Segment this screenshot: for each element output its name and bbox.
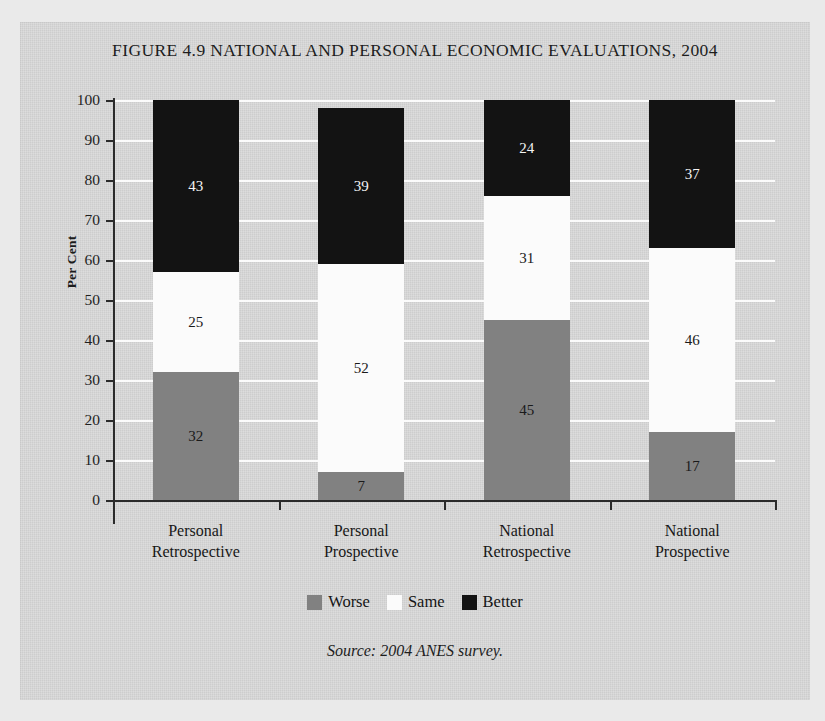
bar-segment-better: 39 xyxy=(318,108,404,264)
category-label-line2: Retrospective xyxy=(437,541,617,562)
y-tick-label-100: 100 xyxy=(54,92,100,108)
bar-segment-worse: 7 xyxy=(318,472,404,500)
y-tick-label-90: 90 xyxy=(54,132,100,148)
legend-swatch-worse xyxy=(307,595,322,610)
category-label-line1: Personal xyxy=(271,520,451,541)
category-label-line2: Prospective xyxy=(602,541,782,562)
y-tick-50 xyxy=(106,300,113,302)
bar-stack: 39527 xyxy=(318,108,404,500)
source-note: Source: 2004 ANES survey. xyxy=(20,642,810,660)
bar-segment-value: 32 xyxy=(188,429,203,444)
y-tick-label-40: 40 xyxy=(54,332,100,348)
category-label-line1: National xyxy=(602,520,782,541)
chart-legend: WorseSameBetter xyxy=(20,592,810,612)
x-tick xyxy=(610,502,612,510)
bar-segment-better: 24 xyxy=(484,100,570,196)
category-label: PersonalProspective xyxy=(271,520,451,562)
bar-segment-better: 37 xyxy=(649,100,735,248)
bar-segment-value: 46 xyxy=(685,333,700,348)
legend-label: Same xyxy=(408,592,445,612)
y-tick-100 xyxy=(106,100,113,102)
bar-segment-worse: 45 xyxy=(484,320,570,500)
y-tick-label-20: 20 xyxy=(54,412,100,428)
y-tick-70 xyxy=(106,220,113,222)
bar-segment-same: 52 xyxy=(318,264,404,472)
bar-segment-value: 39 xyxy=(354,179,369,194)
bar-segment-same: 25 xyxy=(153,272,239,372)
y-tick-60 xyxy=(106,260,113,262)
x-tick xyxy=(113,502,115,510)
bar-segment-value: 31 xyxy=(519,251,534,266)
category-label-line2: Prospective xyxy=(271,541,451,562)
y-tick-90 xyxy=(106,140,113,142)
legend-swatch-better xyxy=(462,595,477,610)
figure-panel: FIGURE 4.9 NATIONAL AND PERSONAL ECONOMI… xyxy=(20,22,810,700)
bar-segment-value: 43 xyxy=(188,179,203,194)
y-tick-label-10: 10 xyxy=(54,452,100,468)
category-label-line1: National xyxy=(437,520,617,541)
legend-swatch-same xyxy=(387,595,402,610)
y-tick-20 xyxy=(106,420,113,422)
category-label: PersonalRetrospective xyxy=(106,520,286,562)
bar-segment-better: 43 xyxy=(153,100,239,272)
legend-label: Better xyxy=(483,592,523,612)
category-label: NationalProspective xyxy=(602,520,782,562)
x-tick xyxy=(444,502,446,510)
legend-item-same: Same xyxy=(387,592,445,612)
bar-segment-same: 31 xyxy=(484,196,570,320)
y-tick-30 xyxy=(106,380,113,382)
bar-segment-value: 52 xyxy=(354,361,369,376)
bar-stack: 432532 xyxy=(153,100,239,500)
y-axis-label: Per Cent xyxy=(64,202,80,322)
bar-segment-value: 45 xyxy=(519,403,534,418)
x-tick xyxy=(279,502,281,510)
bar-segment-value: 7 xyxy=(358,479,366,494)
bar-segment-value: 17 xyxy=(685,459,700,474)
legend-label: Worse xyxy=(328,592,370,612)
y-tick-80 xyxy=(106,180,113,182)
category-label-line2: Retrospective xyxy=(106,541,286,562)
plot-area: 43253239527243145374617 xyxy=(113,100,775,500)
bar-stack: 374617 xyxy=(649,100,735,500)
bar-segment-value: 37 xyxy=(685,167,700,182)
y-tick-label-30: 30 xyxy=(54,372,100,388)
legend-item-worse: Worse xyxy=(307,592,370,612)
bar-segment-worse: 32 xyxy=(153,372,239,500)
y-tick-10 xyxy=(106,460,113,462)
category-label-line1: Personal xyxy=(106,520,286,541)
bar-segment-worse: 17 xyxy=(649,432,735,500)
y-tick-label-80: 80 xyxy=(54,172,100,188)
bar-segment-same: 46 xyxy=(649,248,735,432)
bar-segment-value: 25 xyxy=(188,315,203,330)
figure-page: FIGURE 4.9 NATIONAL AND PERSONAL ECONOMI… xyxy=(0,0,825,721)
x-tick xyxy=(775,502,777,510)
category-label: NationalRetrospective xyxy=(437,520,617,562)
figure-title: FIGURE 4.9 NATIONAL AND PERSONAL ECONOMI… xyxy=(20,40,810,61)
bar-stack: 243145 xyxy=(484,100,570,500)
y-tick-label-0: 0 xyxy=(54,492,100,508)
legend-item-better: Better xyxy=(462,592,523,612)
y-tick-40 xyxy=(106,340,113,342)
bar-segment-value: 24 xyxy=(519,141,534,156)
